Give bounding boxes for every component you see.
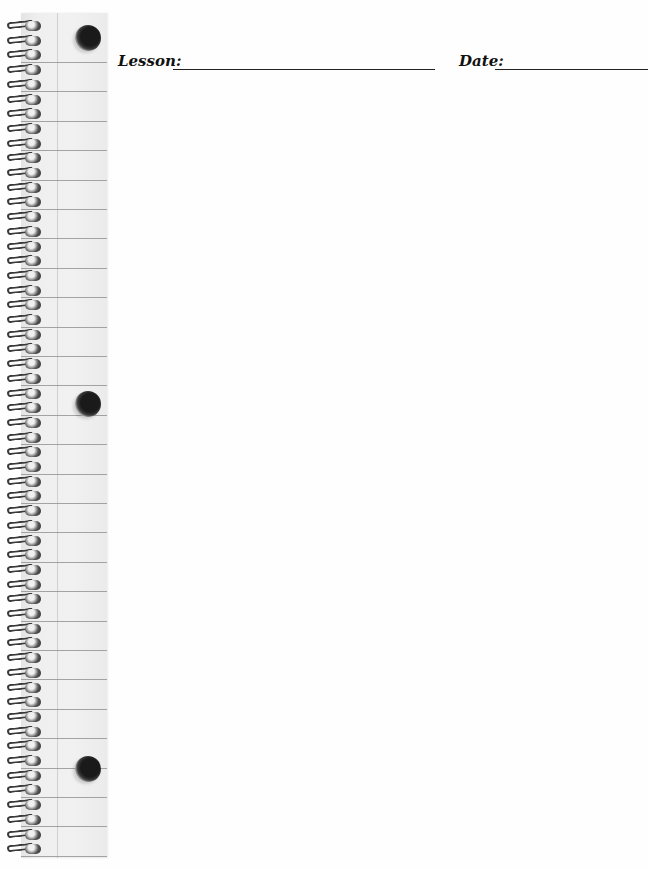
coil-hole [25, 183, 41, 193]
spiral-coil [7, 166, 45, 178]
spiral-coil [7, 798, 45, 810]
spiral-coil [7, 78, 45, 90]
coil-hole [25, 683, 41, 693]
coil-hole [25, 741, 41, 751]
spiral-coil [7, 342, 45, 354]
coil-hole [25, 653, 41, 663]
coil-hole [25, 785, 41, 795]
coil-hole [25, 565, 41, 575]
spiral-coil [7, 254, 45, 266]
spiral-coil [7, 107, 45, 119]
coil-hole [25, 550, 41, 560]
spiral-coil [7, 240, 45, 252]
spiral-coil [7, 828, 45, 840]
coil-hole [25, 638, 41, 648]
coil-hole [25, 624, 41, 634]
spiral-coil [7, 357, 45, 369]
coil-hole [25, 374, 41, 384]
spiral-coil [7, 489, 45, 501]
strip-rule-line [21, 856, 107, 857]
coil-hole [25, 580, 41, 590]
spiral-coil [7, 842, 45, 854]
spiral-coil [7, 445, 45, 457]
spiral-coil [7, 460, 45, 472]
coil-hole [25, 50, 41, 60]
spiral-coil [7, 298, 45, 310]
spiral-coil [7, 313, 45, 325]
coil-hole [25, 668, 41, 678]
date-field[interactable] [495, 69, 648, 70]
coil-hole [25, 477, 41, 487]
spiral-coil [7, 519, 45, 531]
spiral-coil [7, 783, 45, 795]
coil-hole [25, 139, 41, 149]
coil-hole [25, 389, 41, 399]
coil-hole [25, 830, 41, 840]
spiral-binding-strip [21, 13, 107, 858]
coil-hole [25, 212, 41, 222]
margin-line [57, 13, 58, 858]
coil-hole [25, 815, 41, 825]
coil-hole [25, 447, 41, 457]
coil-hole [25, 36, 41, 46]
spiral-coil [7, 651, 45, 663]
spiral-coil [7, 401, 45, 413]
lesson-field[interactable] [173, 69, 435, 70]
spiral-coil [7, 195, 45, 207]
coil-hole [25, 300, 41, 310]
coil-hole [25, 418, 41, 428]
spiral-coil [7, 636, 45, 648]
lesson-label: Lesson: [118, 52, 181, 70]
coil-hole [25, 80, 41, 90]
spiral-coil [7, 431, 45, 443]
coil-hole [25, 594, 41, 604]
coil-hole [25, 800, 41, 810]
coil-hole [25, 521, 41, 531]
coil-hole [25, 536, 41, 546]
coil-hole [25, 21, 41, 31]
coil-hole [25, 697, 41, 707]
coil-hole [25, 65, 41, 75]
coil-hole [25, 756, 41, 766]
spiral-coil [7, 578, 45, 590]
coil-hole [25, 153, 41, 163]
spiral-coil [7, 19, 45, 31]
spiral-coil [7, 548, 45, 560]
coil-hole [25, 403, 41, 413]
coil-hole [25, 462, 41, 472]
coil-hole [25, 727, 41, 737]
spiral-coil [7, 284, 45, 296]
spiral-coil [7, 592, 45, 604]
spiral-coil [7, 813, 45, 825]
coil-hole [25, 491, 41, 501]
spiral-coil [7, 754, 45, 766]
coil-hole [25, 609, 41, 619]
spiral-coil [7, 563, 45, 575]
coil-hole [25, 844, 41, 854]
coil-hole [25, 256, 41, 266]
binder-hole-top [75, 25, 101, 51]
coil-hole [25, 286, 41, 296]
spiral-coil [7, 534, 45, 546]
coil-hole [25, 109, 41, 119]
spiral-coil [7, 739, 45, 751]
spiral-coil [7, 769, 45, 781]
spiral-coil [7, 225, 45, 237]
spiral-coil [7, 328, 45, 340]
coil-hole [25, 315, 41, 325]
spiral-coil [7, 93, 45, 105]
spiral-coil [7, 137, 45, 149]
spiral-coil [7, 504, 45, 516]
spiral-coil [7, 48, 45, 60]
spiral-coil [7, 372, 45, 384]
spiral-coil [7, 210, 45, 222]
spiral-coil [7, 607, 45, 619]
binder-hole-bottom [75, 756, 101, 782]
coil-hole [25, 271, 41, 281]
coil-hole [25, 95, 41, 105]
writing-area[interactable] [118, 90, 648, 870]
spiral-coil [7, 387, 45, 399]
coil-hole [25, 506, 41, 516]
coil-hole [25, 197, 41, 207]
spiral-coil [7, 122, 45, 134]
